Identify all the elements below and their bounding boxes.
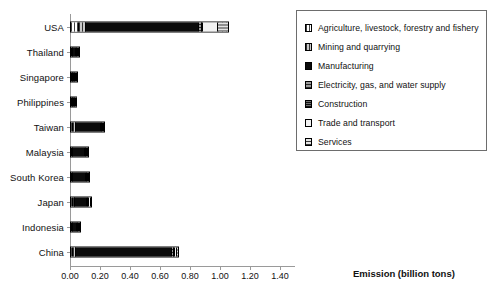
bar-segment — [88, 172, 89, 181]
legend-label: Mining and quarrying — [318, 42, 400, 52]
bar-row: USA — [70, 14, 295, 39]
x-axis-tick — [130, 266, 131, 270]
category-label: Taiwan — [34, 121, 64, 132]
x-axis-tick — [190, 266, 191, 270]
legend-label: Trade and transport — [318, 118, 395, 128]
bar-segment — [72, 172, 85, 181]
stacked-bar[interactable] — [70, 71, 78, 82]
category-label: South Korea — [10, 171, 64, 182]
bar-segment — [176, 247, 178, 256]
legend-label: Construction — [318, 99, 367, 109]
x-axis-line — [70, 266, 295, 267]
legend-swatch-icon — [305, 62, 312, 70]
bar-row: Philippines — [70, 89, 295, 114]
bar-segment — [75, 247, 171, 256]
plot-area: USAThailandSingaporePhilippinesTaiwanMal… — [70, 14, 295, 264]
bar-row: Japan — [70, 189, 295, 214]
x-axis-tick-label: 0.20 — [91, 271, 109, 281]
stacked-bar[interactable] — [70, 121, 105, 132]
bar-row: China — [70, 239, 295, 264]
x-axis-tick-label: 0.60 — [151, 271, 169, 281]
legend-item[interactable]: Trade and transport — [305, 113, 486, 132]
legend-item[interactable]: Electricity, gas, and water supply — [305, 75, 486, 94]
x-axis-title: Emission (billion tons) — [353, 268, 455, 279]
bar-row: Thailand — [70, 39, 295, 64]
bar-segment — [71, 22, 78, 31]
stacked-bar[interactable] — [70, 246, 179, 257]
bar-segment — [74, 197, 86, 206]
stacked-bar[interactable] — [70, 146, 89, 157]
bar-segment — [217, 22, 228, 31]
emission-stacked-bar-chart: USAThailandSingaporePhilippinesTaiwanMal… — [0, 0, 495, 303]
bar-segment — [76, 72, 77, 81]
category-label: Philippines — [17, 96, 64, 107]
x-axis-tick-label: 0.00 — [61, 271, 79, 281]
legend-swatch-icon — [305, 100, 312, 108]
stacked-bar[interactable] — [70, 196, 92, 207]
category-label: Malaysia — [26, 146, 64, 157]
legend-label: Electricity, gas, and water supply — [318, 80, 446, 90]
bar-segment — [103, 122, 104, 131]
legend-swatch-icon — [305, 24, 312, 32]
bar-row: Malaysia — [70, 139, 295, 164]
x-axis-tick — [250, 266, 251, 270]
legend-label: Services — [318, 137, 352, 147]
legend-item[interactable]: Agriculture, livestock, forestry and fis… — [305, 18, 486, 37]
bar-segment — [202, 22, 217, 31]
x-axis-tick-label: 1.40 — [271, 271, 289, 281]
legend-label: Agriculture, livestock, forestry and fis… — [318, 23, 479, 33]
stacked-bar[interactable] — [70, 171, 90, 182]
x-axis-tick-label: 1.00 — [211, 271, 229, 281]
bar-segment — [75, 122, 100, 131]
bar-segment — [79, 222, 80, 231]
legend-swatch-icon — [305, 119, 312, 127]
stacked-bar[interactable] — [70, 46, 80, 57]
category-label: Thailand — [27, 46, 64, 57]
x-axis-tick — [280, 266, 281, 270]
legend-label: Manufacturing — [318, 61, 374, 71]
x-axis-tick — [160, 266, 161, 270]
category-label: Japan — [38, 196, 64, 207]
x-axis-tick-label: 0.80 — [181, 271, 199, 281]
category-label: China — [39, 246, 64, 257]
legend-item[interactable]: Services — [305, 132, 486, 151]
legend-swatch-icon — [305, 81, 312, 89]
x-axis-tick — [70, 266, 71, 270]
bar-segment — [76, 97, 77, 106]
bar-row: Taiwan — [70, 114, 295, 139]
legend-item[interactable]: Manufacturing — [305, 56, 486, 75]
bar-segment — [78, 22, 85, 31]
bar-segment — [90, 197, 91, 206]
bar-segment — [78, 47, 79, 56]
category-label: Singapore — [20, 71, 64, 82]
bar-row: Singapore — [70, 64, 295, 89]
category-label: Indonesia — [22, 221, 64, 232]
category-label: USA — [44, 21, 64, 32]
legend-swatch-icon — [305, 43, 312, 51]
bar-segment — [85, 22, 198, 31]
bar-row: Indonesia — [70, 214, 295, 239]
x-axis-tick — [220, 266, 221, 270]
x-axis-tick — [100, 266, 101, 270]
legend-item[interactable]: Construction — [305, 94, 486, 113]
stacked-bar[interactable] — [70, 21, 229, 32]
bar-segment — [87, 147, 88, 156]
x-axis-tick-label: 0.40 — [121, 271, 139, 281]
legend-swatch-icon — [305, 138, 312, 146]
stacked-bar[interactable] — [70, 221, 81, 232]
x-axis-tick-label: 1.20 — [241, 271, 259, 281]
legend-item[interactable]: Mining and quarrying — [305, 37, 486, 56]
stacked-bar[interactable] — [70, 96, 77, 107]
bar-segment — [72, 147, 83, 156]
bar-row: South Korea — [70, 164, 295, 189]
legend: Agriculture, livestock, forestry and fis… — [296, 10, 487, 151]
